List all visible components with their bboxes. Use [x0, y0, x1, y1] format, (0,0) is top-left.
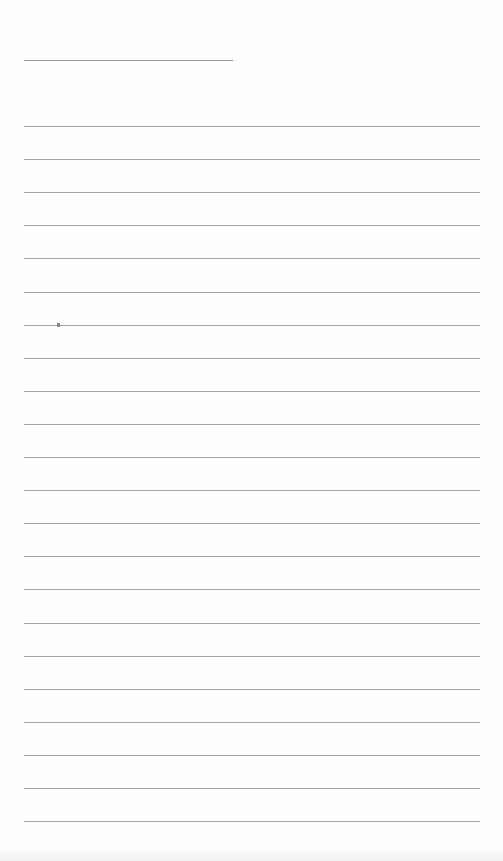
ruled-line[interactable]: [24, 788, 480, 789]
stray-mark: [57, 323, 60, 327]
ruled-line[interactable]: [24, 159, 480, 160]
ruled-line[interactable]: [24, 656, 480, 657]
ruled-line[interactable]: [24, 722, 480, 723]
ruled-line[interactable]: [24, 490, 480, 491]
ruled-line[interactable]: [24, 457, 480, 458]
ruled-line[interactable]: [24, 623, 480, 624]
ruled-line[interactable]: [24, 258, 480, 259]
ruled-line[interactable]: [24, 821, 480, 822]
ruled-line[interactable]: [24, 325, 480, 326]
ruled-line[interactable]: [24, 358, 480, 359]
ruled-line[interactable]: [24, 523, 480, 524]
header-name-line[interactable]: [24, 60, 233, 61]
ruled-line[interactable]: [24, 192, 480, 193]
ruled-line[interactable]: [24, 391, 480, 392]
ruled-line[interactable]: [24, 424, 480, 425]
bottom-edge-shadow: [0, 849, 503, 861]
ruled-line[interactable]: [24, 689, 480, 690]
ruled-line[interactable]: [24, 225, 480, 226]
ruled-line[interactable]: [24, 589, 480, 590]
ruled-line[interactable]: [24, 556, 480, 557]
ruled-line[interactable]: [24, 755, 480, 756]
ruled-line[interactable]: [24, 126, 480, 127]
ruled-line[interactable]: [24, 292, 480, 293]
